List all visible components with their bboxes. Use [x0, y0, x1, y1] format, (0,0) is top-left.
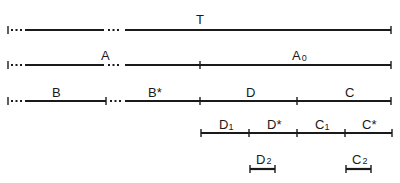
label-c1-sub: 1	[324, 122, 329, 132]
label-d1-sub: 1	[228, 122, 233, 132]
label-c1: C1	[315, 117, 329, 132]
label-b: B	[52, 85, 61, 100]
label-d2-sub: 2	[266, 156, 271, 166]
label-a: A	[101, 48, 110, 63]
row-a: A A0	[8, 48, 391, 69]
label-d1-main: D	[219, 117, 228, 132]
row-d-c-split: D1 D* C1 C*	[201, 117, 392, 137]
label-c: C	[345, 85, 354, 100]
label-c-star: C*	[362, 117, 376, 132]
row-t: T	[8, 12, 391, 34]
label-a0: A0	[292, 48, 307, 63]
label-b-star: B*	[148, 85, 162, 100]
label-d: D	[246, 85, 255, 100]
row-b-d-c: B B* D C	[8, 85, 391, 105]
label-c2-sub: 2	[362, 156, 367, 166]
label-d1: D1	[219, 117, 233, 132]
label-c2: C2	[352, 152, 367, 167]
label-a0-sub: 0	[302, 53, 307, 63]
label-t: T	[196, 12, 204, 27]
row-d2-c2: D2 C2	[250, 152, 371, 173]
label-a0-main: A	[292, 48, 301, 63]
segment-diagram: T A A0 B B* D C D1 D* C1	[0, 0, 400, 183]
label-d2-main: D	[256, 152, 265, 167]
label-d2: D2	[256, 152, 271, 167]
label-c1-main: C	[315, 117, 324, 132]
label-d-star: D*	[267, 117, 281, 132]
label-c2-main: C	[352, 152, 361, 167]
